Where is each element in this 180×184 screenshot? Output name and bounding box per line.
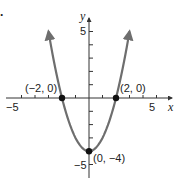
- x-tick-label-5: 5: [149, 102, 155, 113]
- point-label-left: (−2, 0): [25, 83, 57, 94]
- point-label-vertex: (0, −4): [93, 153, 125, 164]
- x-axis-label: x: [168, 101, 173, 113]
- marked-point: [86, 148, 92, 154]
- x-tick-label-neg5: −5: [6, 102, 19, 113]
- point-label-right: (2, 0): [120, 83, 146, 94]
- y-tick-label-neg5: −5: [74, 160, 87, 171]
- marked-point: [59, 95, 65, 101]
- y-tick-label-5: 5: [80, 26, 86, 37]
- y-axis-label: y: [80, 10, 85, 22]
- marked-point: [113, 95, 119, 101]
